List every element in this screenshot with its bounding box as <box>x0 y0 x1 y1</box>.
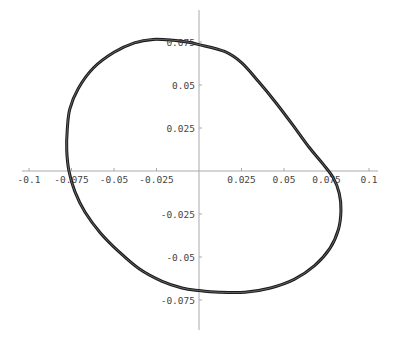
x-tick-label: -0.025 <box>139 174 173 185</box>
y-tick-label: -0.075 <box>161 295 195 306</box>
x-tick-label: 0.025 <box>227 174 256 185</box>
x-tick-label: -0.1 <box>18 174 41 185</box>
orbit-curve <box>67 39 341 292</box>
y-tick-label: 0.025 <box>166 123 195 134</box>
x-tick-label: 0.05 <box>273 174 296 185</box>
y-tick-label: -0.025 <box>161 209 195 220</box>
x-tick-label: 0.1 <box>360 174 377 185</box>
y-tick-label: -0.05 <box>166 252 195 263</box>
axes: -0.1-0.075-0.05-0.0250.0250.050.0750.1 0… <box>18 10 378 330</box>
y-tick-label: 0.05 <box>172 80 195 91</box>
orbit-chart: -0.1-0.075-0.05-0.0250.0250.050.0750.1 0… <box>0 0 396 338</box>
orbit-curve-highlight <box>67 39 341 292</box>
x-tick-label: -0.05 <box>100 174 129 185</box>
series-group <box>67 39 341 292</box>
